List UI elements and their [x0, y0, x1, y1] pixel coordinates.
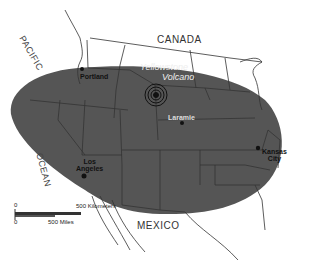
kansas-city-marker: [256, 146, 260, 150]
city-label-kansas: Kansas: [262, 148, 287, 155]
country-label-canada: CANADA: [157, 34, 202, 45]
city-label-portland: Portland: [80, 73, 108, 80]
city-label-kansas-city: Kansas City: [262, 148, 287, 162]
country-label-mexico: MEXICO: [137, 220, 179, 231]
city-label-angeles: Angeles: [76, 165, 103, 172]
scale-km-label: 500 Kilometers: [76, 203, 116, 209]
ash-fall-zone: [11, 66, 282, 214]
city-label-laramie: Laramie: [168, 114, 195, 121]
scale-mi-start: 0: [14, 219, 17, 225]
scale-km-start: 0: [14, 202, 17, 208]
los-angeles-marker: [82, 174, 87, 179]
city-label-city: City: [262, 155, 287, 162]
city-label-los: Los: [76, 158, 103, 165]
city-label-los-angeles: Los Angeles: [76, 158, 103, 172]
volcano-label-line1: Yellowstone: [140, 62, 188, 72]
volcano-marker: [145, 84, 167, 106]
laramie-marker: [180, 121, 184, 125]
portland-marker: [80, 67, 84, 71]
scale-mi-label: 500 Miles: [48, 219, 74, 225]
volcano-label-line2: Volcano: [162, 72, 194, 82]
